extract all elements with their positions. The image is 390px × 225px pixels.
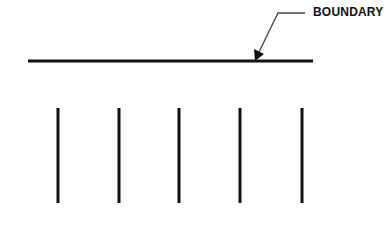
diagram-drawing: [0, 0, 390, 225]
boundary-callout-label: BOUNDARY: [313, 5, 384, 19]
diagram-canvas: BOUNDARY: [0, 0, 390, 225]
vertical-lines: [58, 108, 302, 203]
callout-leader-line: [259, 13, 305, 52]
